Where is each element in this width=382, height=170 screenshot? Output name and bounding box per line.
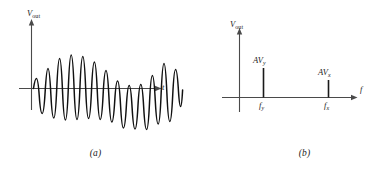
- panel-a-waveform: [34, 55, 183, 130]
- panel-a-plot: [0, 0, 191, 142]
- panel-a-y-axis: [29, 19, 34, 110]
- panel-a-x-axis-label: t: [162, 83, 164, 92]
- panel-b: Vout f AVy AVx fy fx (b): [191, 0, 382, 170]
- panel-b-y-axis-label: Vout: [230, 20, 243, 30]
- panel-a-y-axis-label: Vout: [27, 9, 40, 19]
- panel-b-stem-x-freq-label: fx: [324, 101, 329, 111]
- panel-b-x-axis-label: f: [360, 85, 362, 94]
- panel-b-plot: [191, 0, 382, 142]
- panel-b-stem-x-amplitude-label: AVx: [318, 68, 331, 78]
- panel-b-x-axis: [222, 95, 358, 100]
- panel-a-caption: (a): [0, 148, 191, 158]
- panel-b-stem-y-amplitude-label: AVy: [253, 56, 266, 66]
- panel-b-y-axis: [237, 28, 242, 112]
- panel-b-caption: (b): [191, 148, 382, 158]
- figure-container: Vout t (a) Vout f: [0, 0, 382, 170]
- panel-b-stem-y-freq-label: fy: [259, 101, 264, 111]
- panel-a: Vout t (a): [0, 0, 191, 170]
